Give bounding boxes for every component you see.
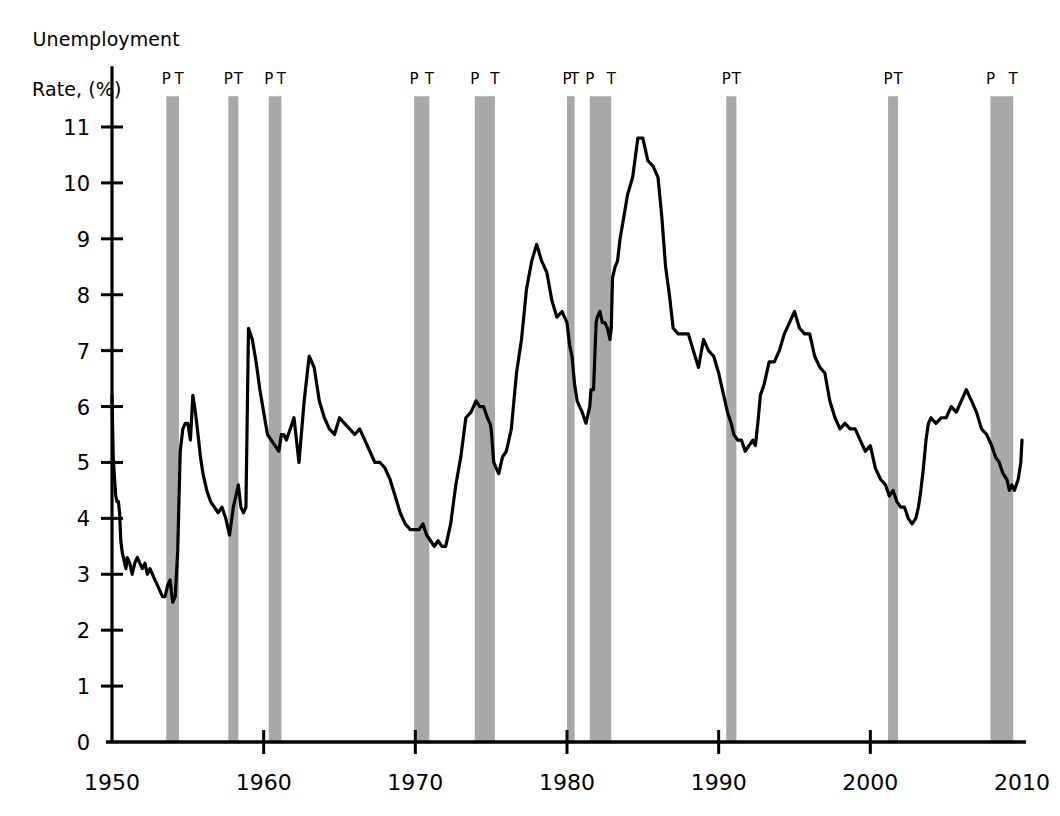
x-axis-tick-label: 1990 [691,770,747,795]
unemployment-rate-chart: Unemployment Rate, (%) PTPTPTPTPTPTPTPTP… [0,0,1060,816]
peak-trough-labels-layer: PTPTPTPTPTPTPTPTPTPT [162,70,1019,88]
recession-band [414,96,429,742]
recession-band [590,96,612,742]
y-axis-tick-label: 6 [77,396,90,420]
trough-label: T [233,70,244,88]
peak-label: P [470,70,479,88]
trough-label: T [569,70,580,88]
trough-label: T [1008,70,1019,88]
recession-band [567,96,575,742]
y-axis-tick-label: 10 [63,172,90,196]
y-axis-tick-label: 4 [77,507,90,531]
peak-label: P [264,70,273,88]
x-axis-tick-label: 1960 [236,770,292,795]
y-axis-tick-label: 7 [77,340,90,364]
axes-layer: 0123456789101119501960197019801990200020… [63,66,1050,795]
trough-label: T [424,70,435,88]
peak-label: P [986,70,995,88]
x-axis-tick-label: 1950 [84,770,140,795]
x-axis-tick-label: 1980 [539,770,595,795]
axis-title-line1: Unemployment [33,28,180,50]
peak-label: P [722,70,731,88]
trough-label: T [606,70,617,88]
trough-label: T [489,70,500,88]
y-axis-tick-label: 8 [77,284,90,308]
recession-band [228,96,238,742]
axis-title-line2: Rate, (%) [8,77,180,102]
recession-band [269,96,282,742]
trough-label: T [893,70,904,88]
y-axis-tick-label: 0 [77,731,90,755]
trough-label: T [731,70,742,88]
peak-label: P [410,70,419,88]
recession-band [475,96,495,742]
y-axis-tick-label: 9 [77,228,90,252]
x-axis-tick-label: 2000 [842,770,898,795]
page-title: Unemployment Rate, (%) [8,2,180,152]
peak-label: P [224,70,233,88]
trough-label: T [276,70,287,88]
recession-band [166,96,179,742]
recession-band [990,96,1013,742]
peak-label: P [884,70,893,88]
recession-band [888,96,898,742]
y-axis-tick-label: 1 [77,675,90,699]
x-axis-tick-label: 2010 [994,770,1050,795]
y-axis-tick-label: 2 [77,619,90,643]
y-axis-tick-label: 5 [77,451,90,475]
x-axis-tick-label: 1970 [387,770,443,795]
y-axis-tick-label: 3 [77,563,90,587]
peak-label: P [585,70,594,88]
